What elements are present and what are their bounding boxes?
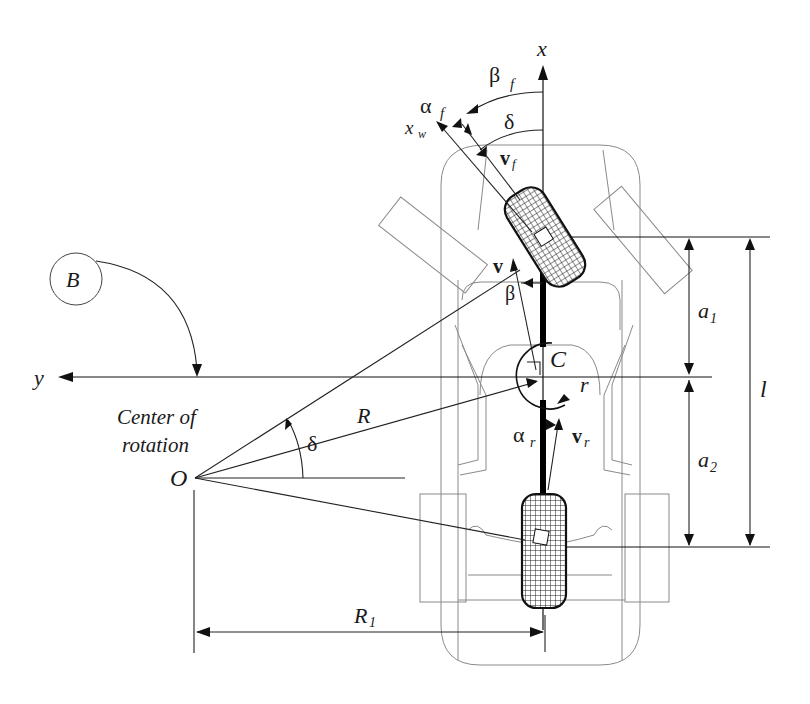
center-of-rotation-label-line2: rotation [122, 433, 189, 457]
vf-subscript: f [512, 156, 518, 171]
a1-label: a [698, 298, 709, 323]
r1-subscript: 1 [369, 615, 376, 630]
b-label: B [66, 267, 79, 292]
cg-label-c: C [550, 346, 567, 372]
dimension-a1 [684, 238, 694, 375]
delta-front-label: δ [504, 109, 514, 134]
xw-subscript: w [418, 127, 426, 141]
alpha-r-label: α [513, 422, 525, 447]
rear-right-wheel-outline [625, 494, 669, 602]
dimension-a2 [684, 380, 694, 546]
y-axis-label: y [32, 365, 44, 390]
wheelbase-label: l [760, 376, 767, 402]
beta-label: β [505, 282, 515, 305]
alpha-f-label: α [420, 93, 432, 118]
r1-label: R [353, 603, 368, 628]
alpha-r-subscript: r [530, 435, 536, 450]
x-axis-label: x [536, 36, 547, 61]
front-right-wheel-outline [594, 186, 692, 293]
rear-angles [546, 418, 563, 490]
a2-subscript: 2 [710, 460, 717, 475]
a1-subscript: 1 [710, 311, 717, 326]
vr-subscript: r [584, 435, 590, 450]
vr-label: v [572, 425, 582, 447]
xw-label: x [404, 117, 414, 138]
axes [58, 65, 770, 630]
vf-label: v [500, 147, 510, 169]
dimension-l [745, 238, 755, 546]
yaw-rate-label: r [580, 372, 589, 397]
o-label: O [170, 465, 187, 491]
delta-o-label: δ [307, 431, 317, 456]
rear-tire [522, 494, 566, 608]
rear-left-wheel-outline [420, 494, 466, 602]
a2-label: a [698, 447, 709, 472]
r-radius-label: R [356, 403, 371, 428]
beta-f-label: β [489, 62, 500, 87]
beta-f-subscript: f [510, 76, 516, 92]
alpha-f-subscript: f [440, 105, 446, 121]
vehicle-kinematics-diagram: x y β f α f x w δ v f v β C r α r v r B … [0, 0, 810, 704]
front-left-wheel-outline [379, 197, 488, 293]
v-label: v [493, 255, 503, 277]
center-of-rotation-label-line1: Center of [117, 405, 199, 429]
